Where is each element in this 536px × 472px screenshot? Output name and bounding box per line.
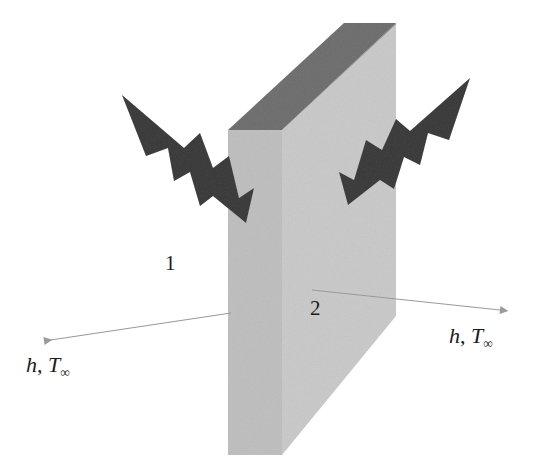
plane-wall-solid: [228, 23, 396, 455]
figure-canvas: 1 2 h, T∞ h, T∞: [0, 0, 536, 472]
comma-left: ,: [37, 352, 43, 377]
infinity-subscript-left: ∞: [60, 365, 70, 380]
surface-label-2: 2: [310, 298, 321, 319]
surface-label-1: 1: [165, 253, 176, 274]
T-symbol-left: T: [48, 352, 60, 377]
h-symbol-left: h: [26, 352, 37, 377]
h-symbol-right: h: [449, 323, 460, 348]
comma-right: ,: [460, 323, 466, 348]
convection-arrow-left: [44, 313, 231, 341]
infinity-subscript-right: ∞: [483, 336, 493, 351]
schematic-svg: [0, 0, 536, 472]
convection-label-left: h, T∞: [26, 354, 70, 380]
slab-side-face: [228, 130, 282, 455]
T-symbol-right: T: [471, 323, 483, 348]
convection-label-right: h, T∞: [449, 325, 493, 351]
